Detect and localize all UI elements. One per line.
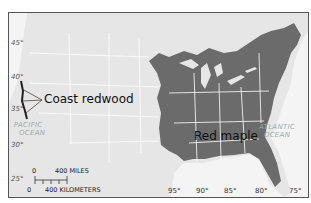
lat-45: 45° xyxy=(11,39,23,47)
lat-30: 30° xyxy=(11,141,23,149)
lon-80: 80° xyxy=(255,187,267,195)
atlantic-line1: ATLANTIC xyxy=(259,123,295,131)
label-coast-redwood: Coast redwood xyxy=(44,92,134,106)
scale-zero-km: 0 xyxy=(27,186,31,194)
lat-40: 40° xyxy=(11,73,23,81)
scale-zero-miles: 0 xyxy=(32,167,36,175)
lon-75: 75° xyxy=(289,187,301,195)
lat-35: 35° xyxy=(11,105,23,113)
lat-25: 25° xyxy=(11,175,23,183)
scale-400-miles: 400 MILES xyxy=(55,167,89,175)
lon-85: 85° xyxy=(224,187,236,195)
lon-95: 95° xyxy=(168,187,180,195)
pacific-line1: PACIFIC xyxy=(11,121,45,129)
range-map: 45° 40° 35° 30° 25° Coast redwood Red ma… xyxy=(8,12,309,198)
atlantic-line2: OCEAN xyxy=(259,131,295,139)
label-red-maple: Red maple xyxy=(194,129,258,143)
label-pacific-ocean: PACIFIC OCEAN xyxy=(11,121,45,137)
label-atlantic-ocean: ATLANTIC OCEAN xyxy=(259,123,295,139)
lon-90: 90° xyxy=(196,187,208,195)
pacific-line2: OCEAN xyxy=(11,129,45,137)
scale-400-km: 400 KILOMETERS xyxy=(45,186,101,194)
